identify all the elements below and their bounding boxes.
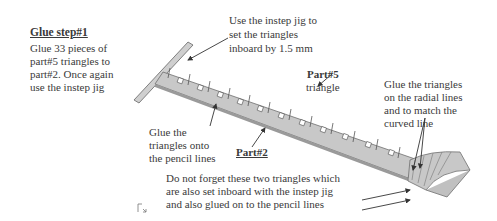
instep-callout-1: Use the instep jig to [229,14,317,27]
step-title: Glue step#1 [30,26,88,39]
pencil-callout-3: the pencil lines [149,152,216,165]
step-text-4: use the instep jig [30,81,104,94]
instep-callout-2: set the triangles [229,28,298,41]
instep-callout-3: inboard by 1.5 mm [229,42,313,55]
part2-label: Part#2 [236,146,268,159]
two-triangles-1: Do not forget these two triangles which [166,172,340,185]
pencil-callout-2: triangles onto [149,139,209,152]
radial-callout-1: Glue the triangles [384,78,462,91]
step-text-1: Glue 33 pieces of [30,42,107,55]
two-triangles-3: and also glued on to the pencil lines [166,198,324,211]
step-text-3: part#2. Once again [30,68,113,81]
cursor-icon [137,203,147,215]
radial-callout-3: and to match the [384,104,457,117]
radial-callout-4: curved line [384,117,433,130]
part5-label: Part#5 [307,68,339,81]
pencil-callout-1: Glue the [149,126,187,139]
radial-callout-2: on the radial lines [384,91,463,104]
two-triangles-2: are also set inboard with the instep jig [166,185,333,198]
part5-sub: triangle [306,81,340,94]
step-text-2: part#5 triangles to [30,55,110,68]
